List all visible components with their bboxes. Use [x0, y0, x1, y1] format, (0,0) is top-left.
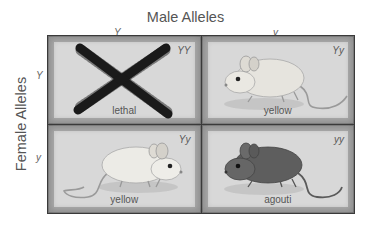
punnett-square: YY lethal Yy yellow [47, 35, 355, 214]
cell-Yy-top: Yy yellow [202, 36, 355, 124]
genotype-label: Yy [179, 134, 191, 145]
female-allele-recessive: y [36, 152, 41, 163]
cell-YY: YY lethal [48, 36, 201, 124]
male-alleles-title: Male Alleles [0, 9, 371, 25]
female-allele-dominant: Y [36, 70, 43, 81]
genotype-label: Yy [332, 45, 344, 56]
female-alleles-title: Female Alleles [13, 77, 29, 171]
phenotype-label: yellow [48, 194, 201, 205]
phenotype-label: lethal [48, 105, 201, 116]
genotype-label: YY [177, 45, 190, 56]
cell-yy: yy agouti [202, 125, 355, 213]
phenotype-label: agouti [202, 194, 355, 205]
cell-Yy-bottom: Yy yellow [48, 125, 201, 213]
genotype-label: yy [334, 134, 344, 145]
phenotype-label: yellow [202, 105, 355, 116]
